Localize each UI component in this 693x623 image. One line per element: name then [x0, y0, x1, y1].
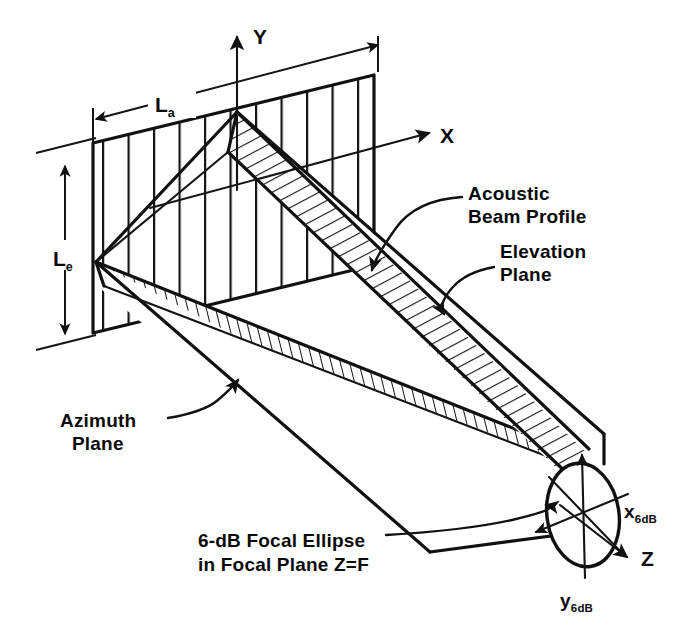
y-axis-label: Y	[253, 25, 267, 48]
abp-line-1: Acoustic	[468, 183, 550, 204]
x6db-subscript: 6dB	[635, 513, 657, 525]
le-symbol: L	[53, 247, 66, 270]
x-axis-label: X	[440, 124, 454, 147]
la-subscript: a	[168, 106, 176, 120]
abp-line-2: Beam Profile	[468, 206, 587, 227]
y6db-subscript: 6dB	[571, 602, 593, 614]
ap-line-1: Azimuth	[60, 410, 136, 431]
fe-line-2: in Focal Plane Z=F	[198, 554, 369, 575]
la-symbol: L	[155, 93, 168, 116]
figure-root: Y X Z La Le Acoustic Beam Profile Elevat…	[0, 0, 693, 623]
ep-line-2: Plane	[500, 264, 552, 285]
fe-line-1: 6-dB Focal Ellipse	[198, 530, 365, 551]
ap-line-2: Plane	[72, 433, 124, 454]
ep-line-1: Elevation	[500, 241, 586, 262]
z-axis-label: Z	[641, 547, 654, 570]
x6db-symbol: x	[624, 501, 635, 522]
y6db-symbol: y	[560, 590, 571, 611]
le-subscript: e	[66, 260, 73, 274]
beam-geometry-diagram: Y X Z La Le Acoustic Beam Profile Elevat…	[0, 0, 693, 623]
